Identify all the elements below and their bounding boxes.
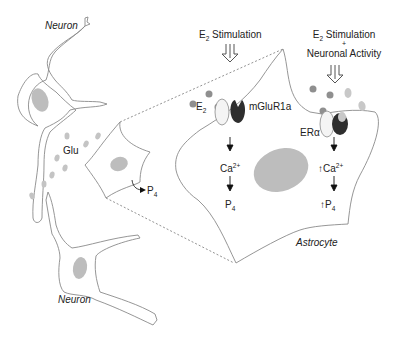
- era-receptor-right: [320, 111, 334, 137]
- era-receptor-left: [215, 99, 229, 125]
- e2-label: E2: [196, 101, 206, 112]
- neuron-top-nucleus: [28, 86, 51, 114]
- neuron-bottom-nucleus: [71, 256, 89, 280]
- mglur1a-label: mGluR1a: [249, 101, 291, 112]
- stimulation-left-label: E2 Stimulation: [199, 29, 262, 40]
- small-astrocyte-p4-label: P4: [147, 185, 157, 196]
- ca-left-label: Ca2+: [220, 163, 240, 174]
- stimulation-arrow-right: [327, 65, 343, 83]
- neuron-top-label: Neuron: [45, 20, 78, 31]
- small-astrocyte-nucleus: [108, 154, 130, 173]
- neuron-bottom-label: Neuron: [58, 294, 91, 305]
- glu-label: Glu: [63, 145, 79, 156]
- stimulation-arrow-left: [222, 44, 238, 62]
- zoom-line-bottom: [106, 198, 234, 263]
- large-astrocyte-nucleus: [248, 141, 315, 200]
- p4-left-label: P4: [225, 199, 235, 210]
- p4-right-label: ↑P4: [320, 199, 335, 210]
- stimulation-right-label: E2 Stimulation + Neuronal Activity: [298, 29, 390, 59]
- neuron-top: [18, 17, 107, 223]
- neuron-bottom: [46, 192, 157, 325]
- era-label: ERα: [300, 127, 320, 138]
- ca-right-label: ↑Ca2+: [318, 163, 343, 174]
- astrocyte-label: Astrocyte: [296, 237, 338, 248]
